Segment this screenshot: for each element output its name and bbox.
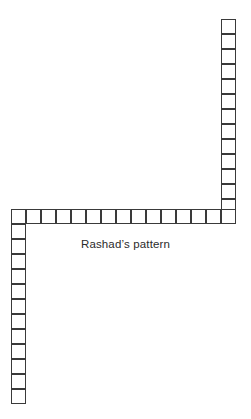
grid-square bbox=[222, 170, 236, 184]
grid-square bbox=[72, 210, 86, 224]
grid-square bbox=[12, 375, 26, 389]
grid-square bbox=[222, 110, 236, 124]
segment-middle-horizontal-row bbox=[12, 210, 236, 224]
grid-square bbox=[147, 210, 161, 224]
grid-square bbox=[222, 95, 236, 109]
grid-square bbox=[27, 210, 41, 224]
grid-square bbox=[117, 210, 131, 224]
grid-square bbox=[12, 315, 26, 329]
grid-square bbox=[12, 360, 26, 374]
grid-square bbox=[12, 390, 26, 404]
grid-square bbox=[222, 35, 236, 49]
segment-top-right-vertical-column bbox=[222, 20, 236, 214]
grid-square bbox=[207, 210, 221, 224]
grid-square bbox=[192, 210, 206, 224]
grid-square bbox=[222, 125, 236, 139]
grid-square bbox=[222, 210, 236, 224]
pattern-caption-label: Rashad’s pattern bbox=[0, 238, 251, 250]
grid-square bbox=[42, 210, 56, 224]
grid-square bbox=[177, 210, 191, 224]
grid-square bbox=[12, 270, 26, 284]
grid-square bbox=[132, 210, 146, 224]
pattern-figure: Rashad’s pattern bbox=[0, 0, 251, 419]
grid-square bbox=[12, 255, 26, 269]
segment-bottom-left-vertical-column bbox=[12, 225, 26, 404]
grid-square bbox=[222, 65, 236, 79]
grid-square bbox=[12, 300, 26, 314]
grid-square bbox=[222, 80, 236, 94]
grid-square bbox=[12, 225, 26, 239]
grid-square bbox=[12, 285, 26, 299]
pattern-diagram bbox=[0, 0, 251, 419]
grid-square bbox=[57, 210, 71, 224]
grid-square bbox=[12, 330, 26, 344]
grid-square bbox=[222, 155, 236, 169]
grid-square bbox=[87, 210, 101, 224]
grid-square bbox=[222, 20, 236, 34]
grid-square bbox=[222, 185, 236, 199]
grid-square bbox=[162, 210, 176, 224]
grid-square bbox=[222, 50, 236, 64]
grid-square bbox=[12, 345, 26, 359]
grid-square bbox=[102, 210, 116, 224]
grid-square bbox=[12, 210, 26, 224]
grid-square bbox=[222, 140, 236, 154]
